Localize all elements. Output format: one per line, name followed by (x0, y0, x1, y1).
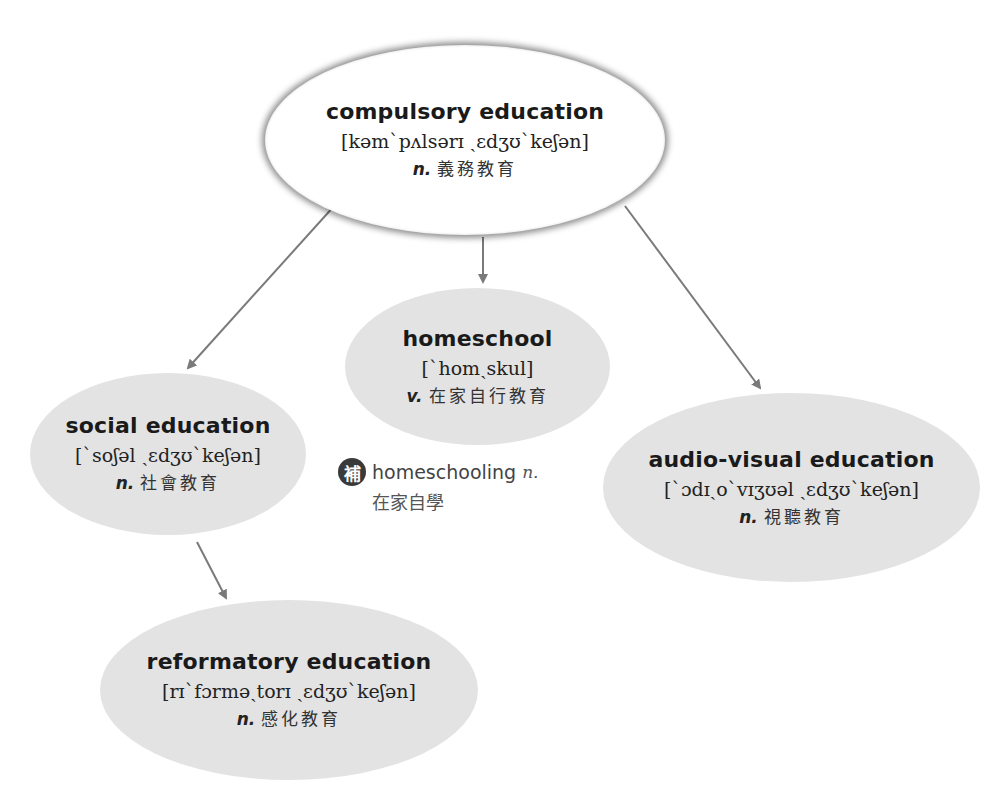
term: compulsory education (326, 97, 604, 127)
part-of-speech: n. (739, 507, 758, 527)
node-reformatory-education: reformatory education [rɪ`fɔrməˏtorɪ ˏɛd… (100, 600, 478, 780)
term: homeschool (402, 324, 552, 354)
translation: 義務教育 (437, 159, 517, 179)
term: social education (65, 411, 270, 441)
pronunciation: [`ɔdɪˏo`vɪʒʊəl ˏɛdʒʊ`keʃən] (664, 475, 919, 503)
supplement-translation: 在家自學 (372, 488, 539, 514)
part-of-speech: n. (116, 473, 135, 493)
pronunciation: [`homˏskul] (422, 354, 534, 382)
part-of-speech: n. (237, 709, 256, 729)
pronunciation: [kəm`pʌlsərɪ ˏɛdʒʊ`keʃən] (341, 127, 589, 155)
supplement-word: homeschooling (372, 461, 516, 483)
definition: n.義務教育 (413, 155, 518, 183)
term: reformatory education (147, 647, 432, 677)
pronunciation: [rɪ`fɔrməˏtorɪ ˏɛdʒʊ`keʃən] (162, 677, 416, 705)
part-of-speech: n. (413, 159, 432, 179)
translation: 社會教育 (140, 473, 220, 493)
arrow-root-to-audio-visual (625, 206, 760, 388)
arrow-social-to-reformatory (197, 542, 226, 598)
arrow-root-to-social (188, 205, 335, 368)
node-homeschool: homeschool [`homˏskul] v.在家自行教育 (345, 288, 610, 445)
supplement-badge-icon: 補 (338, 458, 366, 486)
supplement-part-of-speech: n. (522, 462, 538, 482)
node-social-education: social education [`soʃəl ˏɛdʒʊ`keʃən] n.… (30, 373, 306, 535)
translation: 感化教育 (261, 709, 341, 729)
pronunciation: [`soʃəl ˏɛdʒʊ`keʃən] (75, 441, 261, 469)
node-audio-visual-education: audio-visual education [`ɔdɪˏo`vɪʒʊəl ˏɛ… (603, 393, 980, 582)
translation: 在家自行教育 (429, 386, 549, 406)
term: audio-visual education (648, 445, 934, 475)
node-compulsory-education: compulsory education [kəm`pʌlsərɪ ˏɛdʒʊ`… (265, 45, 665, 235)
translation: 視聽教育 (764, 507, 844, 527)
part-of-speech: v. (406, 386, 422, 406)
definition: n.社會教育 (116, 469, 221, 497)
definition: v.在家自行教育 (406, 382, 548, 410)
definition: n.視聽教育 (739, 503, 844, 531)
supplement-note: 補 homeschooling n. 在家自學 (338, 458, 539, 514)
definition: n.感化教育 (237, 705, 342, 733)
